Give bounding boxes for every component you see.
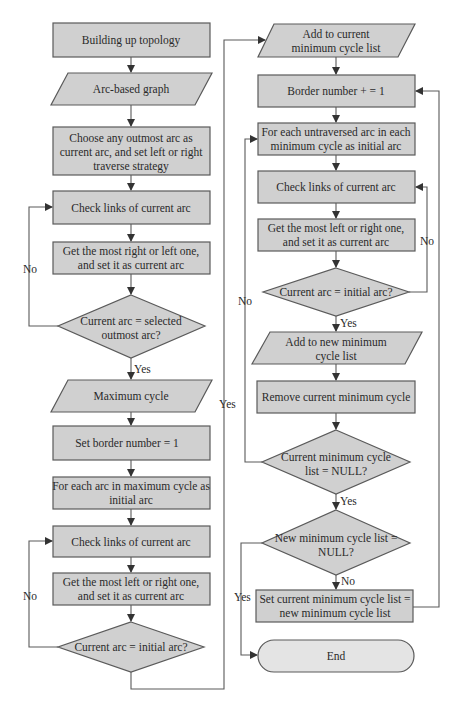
node-check-links-2: Check links of current arc: [53, 526, 210, 557]
svg-text:Add to current: Add to current: [302, 28, 370, 40]
svg-text:For each arc in maximum cycle: For each arc in maximum cycle as: [52, 480, 210, 493]
svg-text:minimum cycle list: minimum cycle list: [292, 42, 382, 55]
svg-text:traverse strategy: traverse strategy: [93, 160, 169, 173]
svg-text:NULL?: NULL?: [318, 546, 354, 558]
svg-text:initial arc: initial arc: [109, 494, 153, 506]
node-arc-based-graph: Arc-based graph: [51, 73, 212, 105]
node-get-most-right-1: Get the most right or left one, and set …: [53, 242, 210, 274]
svg-text:current arc, and set left or r: current arc, and set left or right: [60, 146, 204, 159]
svg-text:Set current minimum cycle list: Set current minimum cycle list =: [259, 593, 410, 606]
svg-text:and set it as current arc: and set it as current arc: [78, 590, 184, 602]
svg-text:Set border number = 1: Set border number = 1: [75, 437, 179, 449]
edge-label-yes: Yes: [219, 398, 236, 410]
edge-label-yes: Yes: [134, 363, 151, 375]
decision-selected-outmost: Current arc = selected outmost arc?: [58, 295, 205, 358]
node-for-each-arc-max: For each arc in maximum cycle as initial…: [52, 477, 210, 509]
svg-text:outmost arc?: outmost arc?: [101, 329, 160, 341]
node-get-most-left-1: Get the most left or right one, and set …: [53, 573, 210, 605]
edge-label-no: No: [23, 590, 37, 602]
edge-label-yes: Yes: [340, 495, 357, 507]
decision-new-list-null: New minimum cycle list = NULL?: [262, 510, 410, 575]
node-check-links-1: Check links of current arc: [53, 191, 210, 224]
svg-text:minimum cycle as initial arc: minimum cycle as initial arc: [271, 140, 402, 153]
svg-text:and set it as current arc: and set it as current arc: [283, 236, 389, 248]
decision-initial-arc-2: Current arc = initial arc?: [263, 268, 409, 316]
svg-text:End: End: [327, 650, 346, 662]
svg-text:Choose any outmost arc as: Choose any outmost arc as: [69, 132, 193, 145]
node-add-new-min-cycle-list: Add to new minimum cycle list: [252, 332, 422, 364]
edge-label-no: No: [238, 295, 252, 307]
node-choose-outmost-arc: Choose any outmost arc as current arc, a…: [53, 127, 210, 175]
svg-text:For each untraversed arc in ea: For each untraversed arc in each: [261, 126, 410, 138]
node-for-each-untraversed: For each untraversed arc in each minimum…: [258, 123, 415, 155]
svg-text:list = NULL?: list = NULL?: [305, 465, 367, 477]
edge-label-yes: Yes: [340, 317, 357, 329]
svg-text:Check links of current arc: Check links of current arc: [71, 202, 190, 214]
svg-text:Current arc = selected: Current arc = selected: [80, 315, 182, 327]
svg-text:Get the most right or left one: Get the most right or left one,: [63, 245, 199, 258]
svg-text:Maximum cycle: Maximum cycle: [93, 390, 168, 403]
node-add-current-min-cycle-list: Add to current minimum cycle list: [258, 24, 415, 57]
edge-label-no: No: [23, 263, 37, 275]
node-set-current-list: Set current minimum cycle list = new min…: [256, 590, 413, 622]
svg-text:Arc-based graph: Arc-based graph: [93, 83, 170, 96]
svg-text:Building up topology: Building up topology: [82, 34, 181, 47]
svg-text:Check links of current arc: Check links of current arc: [276, 181, 395, 193]
svg-text:Border number + = 1: Border number + = 1: [287, 85, 385, 97]
svg-text:new minimum cycle list: new minimum cycle list: [280, 607, 392, 620]
svg-text:Get the most left or right one: Get the most left or right one,: [268, 222, 404, 235]
svg-text:Check links of current arc: Check links of current arc: [71, 536, 190, 548]
decision-current-list-null: Current minimum cycle list = NULL?: [262, 430, 410, 494]
svg-text:New minimum cycle list =: New minimum cycle list =: [275, 532, 398, 545]
svg-text:Current arc = initial arc?: Current arc = initial arc?: [279, 286, 392, 298]
flowchart: Building up topology Arc-based graph Cho…: [0, 0, 460, 708]
node-set-border-number: Set border number = 1: [53, 426, 210, 460]
svg-text:Remove current minimum cycle: Remove current minimum cycle: [262, 391, 411, 404]
node-get-most-left-2: Get the most left or right one, and set …: [258, 219, 415, 251]
svg-text:Current minimum cycle: Current minimum cycle: [281, 451, 391, 464]
node-building-topology: Building up topology: [53, 23, 210, 57]
node-border-number-increment: Border number + = 1: [258, 75, 415, 107]
node-maximum-cycle: Maximum cycle: [51, 380, 212, 412]
svg-text:Get the most left or right one: Get the most left or right one,: [63, 576, 199, 589]
decision-initial-arc-1: Current arc = initial arc?: [58, 622, 204, 672]
node-end: End: [258, 640, 414, 672]
svg-text:and set it as current arc: and set it as current arc: [78, 259, 184, 271]
edge-label-no: No: [341, 575, 355, 587]
edge-label-no: No: [420, 235, 434, 247]
node-remove-current-min-cycle: Remove current minimum cycle: [257, 381, 415, 413]
svg-text:Current arc = initial arc?: Current arc = initial arc?: [74, 641, 187, 653]
node-check-links-3: Check links of current arc: [258, 171, 415, 203]
svg-text:cycle list: cycle list: [315, 350, 357, 363]
edge-label-yes: Yes: [234, 591, 251, 603]
svg-text:Add to new minimum: Add to new minimum: [285, 336, 386, 348]
